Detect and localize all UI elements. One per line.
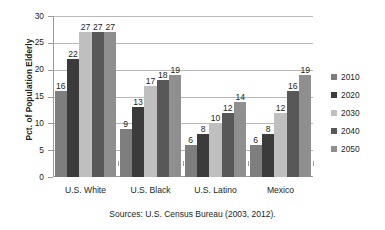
legend-swatch-icon	[331, 110, 337, 116]
x-tick-mark	[313, 161, 314, 166]
bar-slot: 13	[132, 16, 144, 177]
bar: 16	[287, 91, 299, 177]
bar-value-label: 27	[81, 23, 91, 32]
bar: 16	[55, 91, 67, 177]
bar: 19	[299, 75, 311, 177]
bar: 22	[67, 59, 79, 177]
bar-value-label: 18	[158, 71, 168, 80]
bar-slot: 8	[197, 16, 209, 177]
bar: 6	[250, 145, 262, 177]
bar-chart: Pct. of Population Elderly 302520151050 …	[0, 0, 385, 230]
bar: 27	[92, 32, 104, 177]
bar-value-label: 10	[211, 114, 221, 123]
legend-label: 2020	[341, 91, 360, 99]
bar-value-label: 16	[56, 82, 66, 91]
bar: 9	[120, 129, 132, 177]
legend-item[interactable]: 2050	[331, 140, 383, 158]
bar-value-label: 12	[223, 104, 233, 113]
bar-value-label: 17	[146, 77, 156, 86]
bar-value-label: 8	[201, 125, 206, 134]
x-axis-labels: U.S. WhiteU.S. BlackU.S. LatinoMexico	[53, 185, 313, 195]
bar: 6	[185, 145, 197, 177]
legend-item[interactable]: 2040	[331, 122, 383, 140]
bar-slot: 16	[287, 16, 299, 177]
bar-slot: 27	[104, 16, 116, 177]
bar-slot: 18	[157, 16, 169, 177]
bar-slot: 27	[92, 16, 104, 177]
x-tick-mark	[53, 161, 54, 166]
x-tick-mark	[118, 161, 119, 166]
bar: 27	[79, 32, 91, 177]
legend-swatch-icon	[331, 92, 337, 98]
bar-slot: 19	[169, 16, 181, 177]
bar-groups: 16222727279131718196810121468121619	[53, 16, 313, 177]
source-note: Sources: U.S. Census Bureau (2003, 2012)…	[0, 209, 385, 219]
y-tick-label: 10	[4, 119, 44, 127]
legend-swatch-icon	[331, 74, 337, 80]
bar-slot: 22	[67, 16, 79, 177]
x-tick-label: U.S. Latino	[183, 185, 248, 195]
bar: 10	[209, 123, 221, 177]
x-tick-mark	[183, 161, 184, 166]
bar-slot: 19	[299, 16, 311, 177]
legend: 20102020203020402050	[331, 68, 383, 158]
bar-group: 913171819	[118, 16, 183, 177]
legend-item[interactable]: 2020	[331, 86, 383, 104]
bar-value-label: 13	[133, 98, 143, 107]
bar-value-label: 27	[93, 23, 103, 32]
bar-slot: 14	[234, 16, 246, 177]
bar: 12	[222, 113, 234, 177]
bar: 17	[144, 86, 156, 177]
bar-slot: 16	[55, 16, 67, 177]
bar-slot: 27	[79, 16, 91, 177]
y-tick-label: 0	[4, 173, 44, 181]
bar: 27	[104, 32, 116, 177]
y-tick-label: 30	[4, 12, 44, 20]
bar: 8	[197, 134, 209, 177]
y-tick-label: 25	[4, 38, 44, 46]
bar-value-label: 14	[235, 93, 245, 102]
bar-value-label: 12	[276, 104, 286, 113]
legend-item[interactable]: 2030	[331, 104, 383, 122]
bar-slot: 6	[185, 16, 197, 177]
bar-slot: 17	[144, 16, 156, 177]
bar-value-label: 16	[288, 82, 298, 91]
y-axis-title: Pct. of Population Elderly	[25, 15, 34, 165]
bar-value-label: 19	[300, 66, 310, 75]
bar-slot: 8	[262, 16, 274, 177]
x-tick-mark	[248, 161, 249, 166]
bar: 14	[234, 102, 246, 177]
bar-value-label: 9	[123, 120, 128, 129]
x-tick-label: U.S. White	[53, 185, 118, 195]
bar-value-label: 8	[266, 125, 271, 134]
plot-area: 16222727279131718196810121468121619	[53, 16, 313, 177]
bar-slot: 12	[274, 16, 286, 177]
bar: 13	[132, 107, 144, 177]
legend-label: 2010	[341, 73, 360, 81]
legend-swatch-icon	[331, 128, 337, 134]
x-tick-label: U.S. Black	[118, 185, 183, 195]
bar-slot: 9	[120, 16, 132, 177]
x-tick-label: Mexico	[248, 185, 313, 195]
bar-group: 68101214	[183, 16, 248, 177]
y-tick-label: 15	[4, 92, 44, 100]
bar-value-label: 27	[105, 23, 115, 32]
bar-group: 1622272727	[53, 16, 118, 177]
bar: 8	[262, 134, 274, 177]
bar: 18	[157, 80, 169, 177]
legend-swatch-icon	[331, 146, 337, 152]
legend-label: 2040	[341, 127, 360, 135]
bar-slot: 10	[209, 16, 221, 177]
bar-value-label: 6	[188, 136, 193, 145]
bar-group: 68121619	[248, 16, 313, 177]
bar-slot: 6	[250, 16, 262, 177]
legend-label: 2050	[341, 145, 360, 153]
legend-label: 2030	[341, 109, 360, 117]
bar-slot: 12	[222, 16, 234, 177]
legend-item[interactable]: 2010	[331, 68, 383, 86]
bar-value-label: 22	[68, 50, 78, 59]
bar-value-label: 6	[253, 136, 258, 145]
y-tick-label: 20	[4, 65, 44, 73]
bar-value-label: 19	[170, 66, 180, 75]
y-tick-label: 5	[4, 146, 44, 154]
